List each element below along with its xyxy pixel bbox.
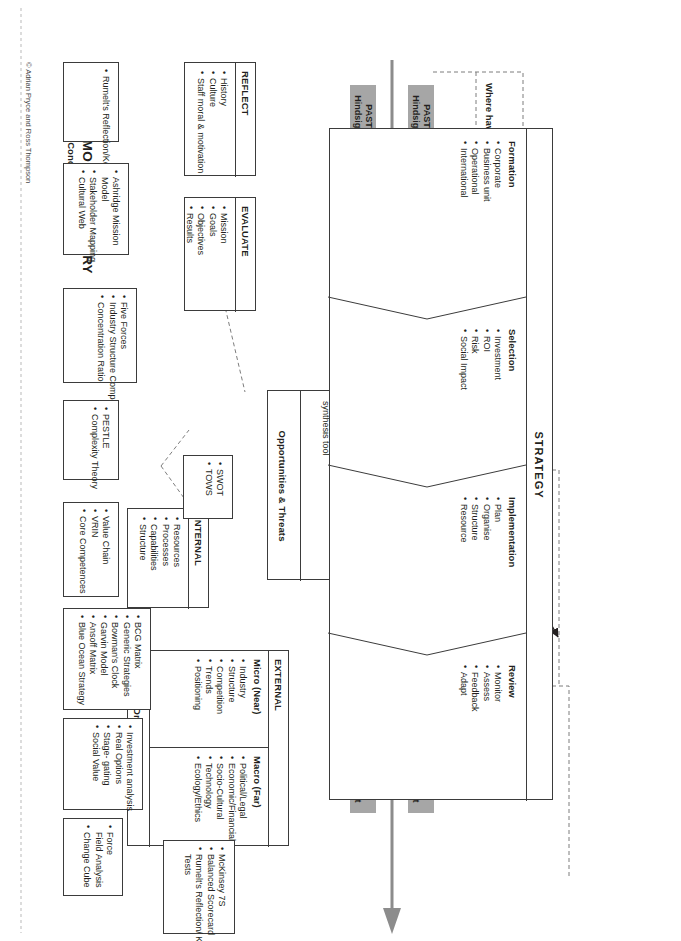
box-external-micro: Micro (Near) Industry Structure Competit… [150,651,268,748]
list-item: Results [184,206,195,310]
box-strategy: STRATEGY Formation Corporate Business un… [329,128,553,800]
directory-list: BCG Matrix Generic Strategies Bowman's C… [75,615,143,709]
list-item: Resource [458,497,469,637]
box-swot-opportunities-threats-title: Opportunities & Threats [266,391,300,581]
box-reflect-list: History Culture Staff moral & motivation [195,71,229,175]
box-evaluate-list: Mission Goals Objectives Results [184,206,229,310]
box-reflect-title: REFLECT [235,63,255,177]
list-item: Rumelt's Reflection/ Key Tests [182,847,205,933]
list-item: Capabilities [148,517,159,607]
list-item: Assess [480,665,491,793]
list-item: Structure [469,497,480,637]
list-item: History [218,71,229,175]
list-item: Competition [214,659,225,747]
strategy-stage-implementation-list: Plan Organise Structure Resource [458,497,503,637]
box-external-macro-title: Macro (Far) [252,756,263,808]
strategy-stage-review: Review Monitor Assess Feedback Adapt [462,665,518,793]
list-item: International [458,141,469,293]
list-item: Risk [469,329,480,469]
list-item: Bowman's Clock [109,615,120,709]
list-item: Change Cube [81,825,92,895]
box-internal: INTERNAL Resources Processes Capabilitie… [127,508,209,608]
list-item: Business unit [480,141,491,293]
list-item: Adapt [458,665,469,793]
list-item: Real Options [112,725,123,809]
list-item: Processes [159,517,170,607]
list-item: Socio-Cultural [214,756,225,848]
list-item: SWOT [214,462,225,518]
directory-list: Rumelt's Reflection/Key Tests [100,69,111,141]
list-item: PESTLE [100,407,111,479]
box-external-macro: Macro (Far) Political/Legal Economic/Fin… [150,748,268,847]
list-item: Ansoff Matrix [87,615,98,709]
strategy-stage-review-list: Monitor Assess Feedback Adapt [458,665,503,793]
list-item: Structure [225,659,236,747]
directory-box-implementation: Force Field Analysis Change Cube [63,818,123,896]
directory-box-micro: Five Forces Industry Structure Competiti… [63,288,137,383]
directory-box-formation: BCG Matrix Generic Strategies Bowman's C… [63,608,151,710]
box-reflect: REFLECT History Culture Staff moral & mo… [184,62,256,176]
directory-list: Five Forces Industry Structure Competiti… [95,295,129,382]
list-item: Generic Strategies [120,615,131,709]
list-item: Resources [171,517,182,607]
box-evaluate: EVALUATE Mission Goals Objectives Result… [184,197,256,311]
list-item: Balanced Scorecard [204,847,215,933]
strategy-stage-formation: Formation Corporate Business unit Operat… [462,141,518,293]
list-item: Objectives [195,206,206,310]
box-external-micro-list: Industry Structure Competition Trends Po… [192,659,248,747]
box-external-macro-list: Political/Legal Economic/Financial Socio… [192,756,248,848]
directory-box-selection: Investment analysis Real Options Stage- … [63,718,143,810]
list-item: McKinsey 7S [216,847,227,933]
list-item: Ecology/Ethics [192,756,203,848]
directory-box-review: McKinsey 7S Balanced Scorecard Rumelt's … [163,840,235,934]
list-item: Culture [206,71,217,175]
directory-list: PESTLE Complexity Theory [88,407,111,479]
list-item: Cultural Web [76,170,87,254]
list-item: Five Forces [118,295,129,382]
directory-list: Value Chain VRIN Core Competences [77,509,111,596]
strategy-stage-selection-title: Selection [507,329,518,469]
list-item: Mission [218,206,229,310]
box-external-micro-title: Micro (Near) [252,659,263,714]
list-item: Stakeholder Mapping [87,170,98,254]
list-item: Investment analysis [124,725,135,809]
list-item: Economic/Financial [225,756,236,848]
directory-box-internal: Value Chain VRIN Core Competences [63,502,119,597]
list-item: Industry Structure Competitive Analysis [106,295,117,382]
strategy-stage-implementation-title: Implementation [507,497,518,637]
strategy-stage-selection-list: Investment ROI Risk Social Impact [458,329,503,469]
list-item: Stage- gating [101,725,112,809]
list-item: ROI [480,329,491,469]
list-item: Social Value [90,725,101,809]
directory-list: Ashridge Mission Model Stakeholder Mappi… [76,170,121,254]
list-item: Core Competences [77,509,88,596]
list-item: Operational [469,141,480,293]
list-item: Technology [203,756,214,848]
list-item: Complexity Theory [88,407,99,479]
list-item: Plan [492,497,503,637]
list-item: Goals [206,206,217,310]
list-item: Value Chain [100,509,111,596]
list-item: Corporate [492,141,503,293]
list-item: Ashridge Mission Model [98,170,121,254]
poster-landscape-layer: FIT? FIT? PAST Hindsight PRESENT Insight… [0,0,681,941]
list-item: Feedback [469,665,480,793]
strategy-stage-selection: Selection Investment ROI Risk Social Imp… [462,329,518,469]
strategy-stage-formation-list: Corporate Business unit Operational Inte… [458,141,503,293]
list-item: Political/Legal [237,756,248,848]
list-item: BCG Matrix [132,615,143,709]
directory-list: Investment analysis Real Options Stage- … [90,725,135,809]
box-external: EXTERNAL Micro (Near) Industry Structure… [127,650,289,846]
box-evaluate-title: EVALUATE [235,198,255,312]
list-item: Blue Ocean Strategy [75,615,86,709]
box-internal-title: INTERNAL [188,509,208,609]
list-item: Force Field Analysis [92,825,115,895]
box-strategy-title: STRATEGY [526,129,552,801]
list-item: Social Impact [458,329,469,469]
list-item: Concentration Ratio [95,295,106,382]
strategy-stage-implementation: Implementation Plan Organise Structure R… [462,497,518,637]
box-external-title: EXTERNAL [268,651,288,847]
list-item: Staff moral & motivation [195,71,206,175]
box-internal-list: Resources Processes Capabilities Structu… [137,517,182,607]
directory-box-evaluate: Ashridge Mission Model Stakeholder Mappi… [63,163,129,255]
